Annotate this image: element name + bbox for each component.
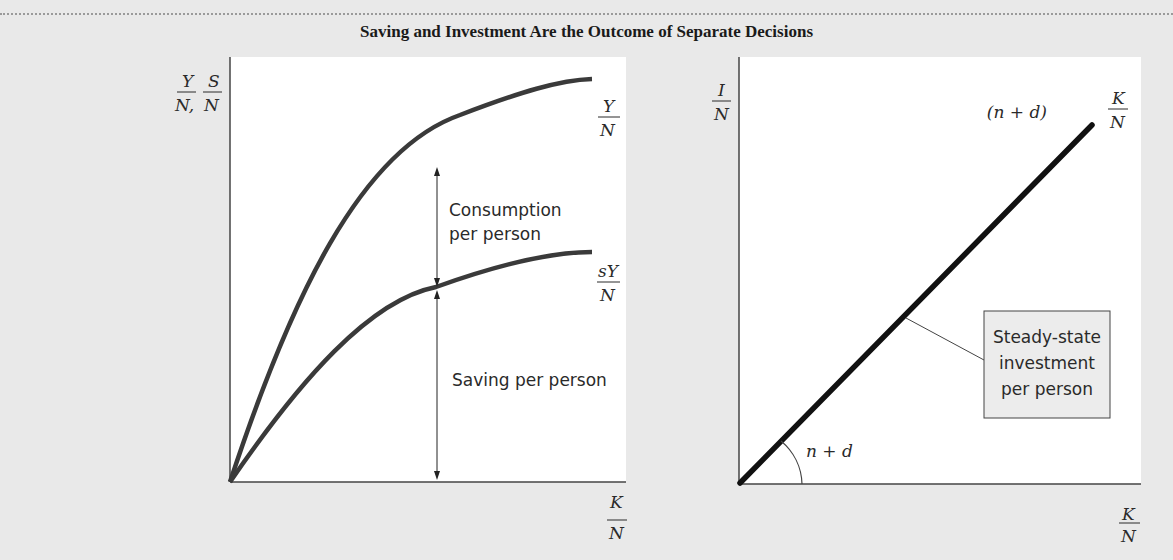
right-y-axis-label: I N	[712, 80, 731, 124]
saving-label: Saving per person	[452, 370, 607, 390]
svg-text:K: K	[609, 492, 624, 512]
consumption-label-line2: per person	[449, 224, 541, 244]
svg-text:S: S	[208, 71, 220, 91]
svg-text:N: N	[1109, 112, 1126, 132]
svg-text:Y: Y	[182, 71, 195, 91]
right-x-axis-label: K N	[1119, 504, 1140, 546]
svg-text:N: N	[608, 523, 625, 543]
consumption-label-line1: Consumption	[449, 200, 562, 220]
left-plot-area	[230, 57, 626, 482]
callout-line1: Steady-state	[993, 327, 1101, 347]
svg-text:N: N	[1120, 526, 1137, 546]
svg-text:K: K	[1111, 88, 1126, 108]
left-y-axis-label: Y N, S N	[174, 71, 222, 115]
svg-text:Y: Y	[603, 96, 616, 116]
svg-text:N: N	[599, 120, 616, 140]
figure-canvas: Consumption per person Saving per person…	[0, 0, 1173, 560]
svg-text:(n + d): (n + d)	[987, 102, 1047, 122]
left-x-axis-label: K N	[607, 492, 627, 543]
slope-label: n + d	[806, 441, 853, 461]
svg-text:N: N	[713, 104, 730, 124]
svg-text:N,: N,	[174, 95, 194, 115]
right-panel: n + d Steady-state investment per person…	[712, 57, 1141, 546]
left-panel: Consumption per person Saving per person…	[174, 57, 627, 543]
svg-text:N: N	[599, 285, 616, 305]
callout-line3: per person	[1001, 379, 1093, 399]
svg-text:N: N	[203, 95, 220, 115]
svg-text:sY: sY	[598, 261, 620, 281]
svg-text:K: K	[1121, 504, 1136, 524]
svg-text:I: I	[717, 80, 725, 100]
callout-line2: investment	[999, 353, 1095, 373]
